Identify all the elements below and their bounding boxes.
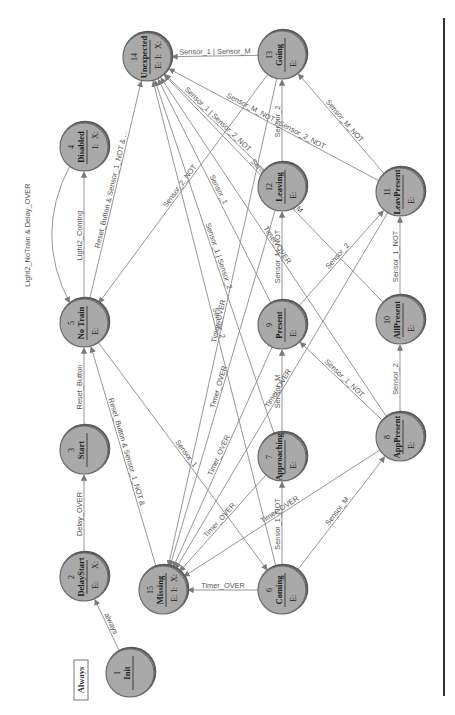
state-unexpected[interactable]: 14UnexpectedE:I:X: (123, 32, 172, 81)
entry-action-mark: E: (289, 595, 298, 602)
state-number: 3 (67, 448, 76, 452)
transition-label: Sensor_M_NOT (324, 98, 366, 145)
transition-12-to-13: Sensor_2 (273, 80, 282, 163)
transition-1-to-2: always (95, 600, 121, 652)
entry-action-mark: E: (289, 60, 298, 67)
transition-label: Sensor_1 | Sensor_2 (204, 222, 235, 291)
legend-label: Always (76, 666, 86, 693)
entry-action-mark: E: (407, 325, 416, 332)
state-name: Init (122, 666, 132, 679)
entry-action-mark: E: (289, 462, 298, 469)
state-name: Disabled (76, 131, 86, 163)
state-name: Unexpected (139, 35, 149, 78)
transition-6-to-7: Sensor_1_NOT (273, 482, 282, 566)
transition-5-to-14: Reset_Button & Sensor_1_NOT & ... (90, 81, 142, 299)
state-allpresent[interactable]: 10AllPresentE: (376, 295, 425, 344)
transition-8-to-9: Sensor_1_NOT (300, 342, 382, 420)
transition-11-to-13: Sensor_M_NOT (298, 74, 384, 174)
state-apppresent[interactable]: 8AppPresentE: (376, 412, 425, 461)
state-number: 10 (383, 316, 392, 324)
state-name: DelayStart (76, 557, 86, 596)
transition-5-to-4: Light2_Coming (75, 172, 84, 299)
state-number: 1 (113, 671, 122, 675)
transition-10-to-11: Sensor_1_NOT (391, 217, 400, 296)
transition-label: Timer_OVER (201, 581, 245, 590)
entry-action-mark: E: (154, 62, 163, 69)
state-name: Missing (155, 575, 165, 604)
transition-2-to-3: Delay_OVER (75, 475, 84, 553)
state-leavpresent[interactable]: 11LeavPresentE: (376, 167, 425, 216)
transition-label: Reset_Button (75, 365, 84, 410)
state-coming[interactable]: 6ComingE: (258, 565, 307, 614)
exit-action-mark: X: (170, 574, 179, 582)
exit-action-mark: X: (154, 41, 163, 49)
transition-label: Sensor_2 (273, 106, 282, 138)
transition-label: Light2_NoTrain & Delay_OVER (23, 183, 32, 286)
exit-action-mark: X: (91, 561, 100, 569)
transition-label: Sensor_1_NOT (391, 230, 400, 282)
transition-label: always (102, 611, 120, 636)
exit-action-mark: X: (91, 131, 100, 139)
state-number: 6 (265, 588, 274, 592)
entry-action-mark: E: (407, 197, 416, 204)
state-missing[interactable]: 15MissingE:I:X: (139, 565, 188, 614)
state-number: 7 (265, 455, 274, 459)
state-name: Coming (274, 575, 284, 605)
state-disabled[interactable]: 4DisabledI:X: (60, 122, 109, 171)
transition-13-to-14: Sensor_1 | Sensor_M (172, 46, 258, 56)
state-delaystart[interactable]: 2DelayStartE:X: (60, 552, 109, 601)
state-number: 9 (265, 323, 274, 327)
entry-action-mark: E: (289, 192, 298, 199)
state-name: Leaving (274, 172, 284, 202)
state-init[interactable]: 1Init (106, 648, 155, 697)
state-name: Going (274, 43, 284, 66)
transition-label: Light2_Coming (75, 211, 84, 261)
entry-action-mark: E: (91, 328, 100, 335)
transition-label: Sensor_2 (323, 241, 351, 271)
transition-label: Timer_OVER (208, 365, 229, 409)
state-leaving[interactable]: 12LeavingE: (258, 162, 307, 211)
state-start[interactable]: 3Start (60, 425, 109, 474)
transition-3-to-5: Reset_Button (75, 348, 84, 426)
entry-action-mark: E: (407, 442, 416, 449)
legend: Always (74, 660, 88, 700)
state-number: 12 (265, 183, 274, 191)
transition-13-to-5: Sensor_2_NOT (99, 74, 268, 303)
transition-label: Sensor_1 (208, 173, 230, 205)
state-no-train[interactable]: 5No TrainE: (60, 298, 109, 347)
state-name: No Train (76, 306, 86, 339)
state-name: Start (76, 441, 86, 460)
internal-action-mark: I: (91, 144, 100, 149)
state-approaching[interactable]: 7ApproachingE: (258, 432, 307, 481)
state-number: 14 (130, 53, 139, 61)
transition-label: Reset_Button & Sensor_1_NOT & ... (107, 397, 150, 515)
states-layer: 1Init2DelayStartE:X:3Start4DisabledI:X:5… (60, 30, 425, 697)
transition-label: Delay_OVER (75, 492, 84, 536)
transition-label: Sensor_M (323, 495, 351, 527)
state-number: 5 (67, 321, 76, 325)
transition-label: Sensor_1_NOT (323, 357, 367, 399)
entry-action-mark: E: (289, 330, 298, 337)
transition-label: Timer_OVER (206, 433, 232, 477)
transition-6-to-8: Sensor_M (297, 457, 385, 571)
transition-label: Timer_OVER (202, 501, 238, 540)
state-number: 4 (67, 145, 76, 149)
entry-action-mark: E: (91, 582, 100, 589)
transition-6-to-15: Timer_OVER (188, 581, 258, 590)
state-name: Present (274, 311, 284, 338)
transition-label: Sensor_2 (391, 363, 400, 395)
state-number: 13 (265, 51, 274, 59)
state-number: 8 (383, 435, 392, 439)
transition-4-to-5: Light2_NoTrain & Delay_OVER (23, 166, 70, 302)
state-name: LeavPresent (392, 169, 402, 214)
state-number: 2 (67, 575, 76, 579)
internal-action-mark: I: (170, 587, 179, 592)
state-machine-diagram: alwaysDelay_OVERReset_ButtonLight2_NoTra… (0, 0, 455, 715)
state-name: Approaching (274, 432, 284, 480)
transition-label: Sensor_1 | Sensor_M (179, 46, 250, 56)
state-number: 11 (383, 188, 392, 196)
state-going[interactable]: 13GoingE: (258, 30, 307, 79)
state-name: AllPresent (392, 301, 402, 339)
internal-action-mark: I: (154, 54, 163, 59)
state-present[interactable]: 9PresentE: (258, 300, 307, 349)
